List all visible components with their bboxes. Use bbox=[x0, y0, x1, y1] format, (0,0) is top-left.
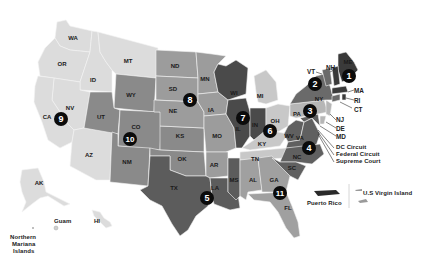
svg-text:2: 2 bbox=[312, 79, 317, 89]
label-co: CO bbox=[132, 124, 141, 130]
circuit-badge-7[interactable]: 7 bbox=[236, 111, 250, 125]
callout-de: DE bbox=[336, 125, 346, 132]
label-northern-mariana-2: Mariana bbox=[12, 241, 36, 247]
label-sc: SC bbox=[288, 165, 297, 171]
label-az: AZ bbox=[85, 152, 93, 158]
northern-mariana-dots[interactable] bbox=[32, 227, 34, 229]
state-fl[interactable] bbox=[248, 192, 300, 238]
circuit-badge-4[interactable]: 4 bbox=[302, 141, 316, 155]
label-ca: CA bbox=[43, 114, 52, 120]
circuit-badge-5[interactable]: 5 bbox=[200, 191, 214, 205]
callout-federal-circuit: Federal Circuit bbox=[336, 151, 380, 157]
guam-shape[interactable] bbox=[54, 226, 58, 230]
circuit-badge-11[interactable]: 11 bbox=[273, 186, 287, 200]
label-mt: MT bbox=[124, 58, 133, 64]
label-nv: NV bbox=[66, 105, 74, 111]
label-tx: TX bbox=[170, 185, 178, 191]
callout-nj: NJ bbox=[336, 116, 345, 123]
label-va: VA bbox=[296, 135, 305, 141]
callout-ct: CT bbox=[354, 106, 363, 113]
state-co[interactable] bbox=[118, 110, 162, 150]
label-in: IN bbox=[252, 122, 258, 128]
label-hi: HI bbox=[94, 218, 100, 224]
circuit-badge-8[interactable]: 8 bbox=[183, 93, 197, 107]
label-al: AL bbox=[249, 177, 257, 183]
callout-ri: RI bbox=[354, 97, 361, 104]
label-ne: NE bbox=[169, 108, 177, 114]
state-ak[interactable] bbox=[20, 168, 70, 212]
label-nc: NC bbox=[293, 154, 302, 160]
label-mn: MN bbox=[200, 76, 209, 82]
circuit-badge-6[interactable]: 6 bbox=[263, 124, 277, 138]
label-wv: WV bbox=[284, 133, 294, 139]
state-nj[interactable] bbox=[326, 100, 332, 116]
label-ky: KY bbox=[258, 141, 266, 147]
label-or: OR bbox=[58, 61, 68, 67]
label-mi: MI bbox=[257, 93, 264, 99]
callout-ma: MA bbox=[354, 87, 364, 94]
label-me: ME bbox=[344, 59, 353, 65]
callout-md: MD bbox=[336, 133, 346, 140]
label-mo: MO bbox=[212, 133, 222, 139]
state-ri[interactable] bbox=[342, 94, 346, 100]
callout-vt: VT bbox=[307, 68, 315, 75]
state-ne[interactable] bbox=[154, 100, 204, 128]
label-ks: KS bbox=[176, 133, 184, 139]
label-sd: SD bbox=[169, 86, 178, 92]
svg-text:7: 7 bbox=[240, 113, 245, 123]
state-ct[interactable] bbox=[332, 94, 340, 102]
circuit-badge-2[interactable]: 2 bbox=[308, 77, 322, 91]
svg-text:11: 11 bbox=[276, 189, 285, 198]
svg-text:9: 9 bbox=[58, 114, 63, 124]
label-nm: NM bbox=[122, 159, 131, 165]
label-oh: OH bbox=[271, 118, 280, 124]
circuit-badge-10[interactable]: 10 bbox=[123, 132, 137, 146]
label-la: LA bbox=[211, 185, 220, 191]
label-ok: OK bbox=[178, 156, 188, 162]
us-virgin-island-shape[interactable] bbox=[358, 199, 368, 203]
circuit-badge-1[interactable]: 1 bbox=[342, 69, 356, 83]
callout-nh: NH bbox=[326, 64, 336, 71]
label-ny: NY bbox=[315, 96, 323, 102]
label-ak: AK bbox=[35, 180, 44, 186]
label-northern-mariana-3: Islands bbox=[13, 248, 35, 254]
label-ut: UT bbox=[97, 114, 105, 120]
label-wi: WI bbox=[230, 90, 238, 96]
svg-text:4: 4 bbox=[306, 143, 311, 153]
callout-dc-circuit: DC Circuit bbox=[336, 144, 366, 150]
label-wy: WY bbox=[126, 92, 136, 98]
callout-supreme-court: Supreme Court bbox=[336, 158, 381, 164]
judicial-circuits-map: WA OR ID MT NV CA AZ WY UT CO NM KS OK N… bbox=[0, 0, 437, 264]
label-puerto-rico: Puerto Rico bbox=[307, 200, 342, 206]
svg-text:6: 6 bbox=[267, 126, 272, 136]
label-nd: ND bbox=[171, 63, 180, 69]
label-ar: AR bbox=[210, 162, 219, 168]
label-id: ID bbox=[90, 77, 97, 83]
circuit-badge-9[interactable]: 9 bbox=[54, 112, 68, 126]
label-northern-mariana-1: Northern bbox=[10, 234, 36, 240]
state-ma[interactable] bbox=[332, 86, 348, 94]
svg-text:3: 3 bbox=[307, 106, 312, 116]
state-de[interactable] bbox=[320, 116, 326, 124]
label-il: IL bbox=[235, 126, 241, 132]
label-tn: TN bbox=[251, 156, 259, 162]
label-fl: FL bbox=[284, 205, 292, 211]
circuit-badge-3[interactable]: 3 bbox=[303, 104, 317, 118]
label-us-virgin-island: U.S Virgin Island bbox=[363, 190, 413, 196]
puerto-rico-shape[interactable] bbox=[314, 190, 340, 196]
state-ks[interactable] bbox=[160, 126, 204, 152]
label-ms: MS bbox=[230, 177, 239, 183]
svg-text:10: 10 bbox=[126, 135, 135, 144]
label-ia: IA bbox=[208, 107, 215, 113]
svg-text:8: 8 bbox=[187, 95, 192, 105]
label-pa: PA bbox=[293, 111, 302, 117]
svg-text:5: 5 bbox=[204, 193, 209, 203]
label-ga: GA bbox=[270, 177, 280, 183]
label-guam: Guam bbox=[54, 218, 71, 224]
svg-text:1: 1 bbox=[346, 71, 351, 81]
label-wa: WA bbox=[68, 35, 78, 41]
